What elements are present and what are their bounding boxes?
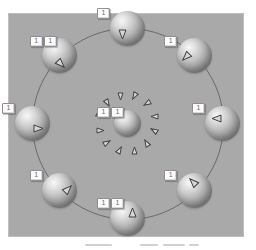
sphere-lower-right — [177, 173, 212, 208]
sphere-top — [110, 11, 145, 46]
tag-label: 1 — [30, 36, 43, 47]
satellite-label-tag: 1 — [164, 36, 177, 47]
satellite-label-tag: 1 — [192, 103, 205, 114]
tag-label: 1 — [164, 36, 177, 47]
tag-label: 1 — [97, 8, 110, 19]
satellite-label-tag: 1 — [2, 103, 15, 114]
render-viewport: 111111111111 — [8, 13, 244, 237]
caption-text-fragment — [163, 244, 185, 246]
tag-label: 1 — [97, 198, 110, 209]
tag-label: 1 — [111, 198, 124, 209]
caption-text-fragment — [85, 244, 112, 246]
central-label-tag: 11 — [97, 107, 124, 118]
sphere-right — [205, 106, 240, 141]
tag-label: 1 — [192, 103, 205, 114]
satellite-label-tag: 11 — [97, 198, 124, 209]
satellite-label-tag: 11 — [30, 36, 57, 47]
satellite-label-tag: 1 — [164, 170, 177, 181]
tag-label: 1 — [2, 103, 15, 114]
satellite-label-tag: 1 — [97, 8, 110, 19]
tag-label: 1 — [97, 107, 110, 118]
figure-stage: 111111111111 — [0, 0, 256, 250]
tag-label: 1 — [164, 170, 177, 181]
sphere-left — [15, 106, 50, 141]
caption-text-fragment — [189, 244, 199, 246]
satellite-label-tag: 1 — [30, 170, 43, 181]
sphere-upper-right — [177, 38, 212, 73]
caption-text-fragment — [140, 244, 158, 246]
sphere-lower-left — [42, 173, 77, 208]
tag-label: 1 — [44, 36, 57, 47]
tag-label: 1 — [111, 107, 124, 118]
tag-label: 1 — [30, 170, 43, 181]
